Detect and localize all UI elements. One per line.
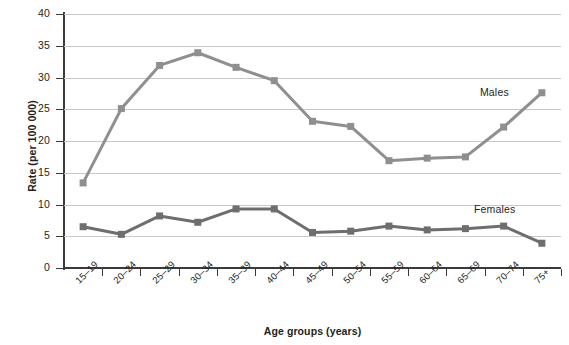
- data-point-marker: [385, 157, 392, 164]
- data-point-marker: [271, 205, 278, 212]
- data-point-marker: [500, 223, 507, 230]
- data-point-marker: [385, 223, 392, 230]
- data-point-marker: [424, 226, 431, 233]
- data-point-marker: [80, 223, 87, 230]
- data-point-marker: [118, 231, 125, 238]
- data-point-marker: [118, 105, 125, 112]
- data-point-marker: [424, 155, 431, 162]
- data-point-marker: [156, 212, 163, 219]
- data-point-marker: [194, 49, 201, 56]
- data-point-marker: [194, 219, 201, 226]
- data-point-marker: [462, 153, 469, 160]
- data-point-marker: [80, 179, 87, 186]
- data-point-marker: [538, 240, 545, 247]
- line-chart: Rate (per 100 000) 0510152025303540 15–1…: [0, 0, 569, 345]
- series-label-males: Males: [480, 86, 509, 98]
- series-layer: [0, 0, 569, 345]
- data-point-marker: [233, 64, 240, 71]
- series-label-females: Females: [474, 203, 516, 215]
- data-point-marker: [271, 77, 278, 84]
- data-point-marker: [156, 62, 163, 69]
- x-axis-title: Age groups (years): [64, 325, 561, 337]
- data-point-marker: [538, 89, 545, 96]
- data-point-marker: [309, 229, 316, 236]
- data-point-marker: [309, 118, 316, 125]
- data-point-marker: [500, 124, 507, 131]
- data-point-marker: [233, 205, 240, 212]
- data-point-marker: [347, 228, 354, 235]
- data-point-marker: [462, 225, 469, 232]
- data-point-marker: [347, 123, 354, 130]
